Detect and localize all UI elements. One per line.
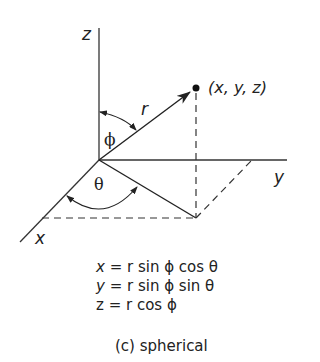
equation-z-lhs: z	[96, 296, 104, 314]
theta-label: θ	[94, 175, 104, 194]
radius-label: r	[141, 99, 149, 119]
equation-x-lhs: x	[96, 258, 105, 276]
point-marker	[193, 85, 200, 92]
figure-caption: (c) spherical	[115, 337, 208, 355]
y-axis-label: y	[273, 167, 285, 187]
x-axis-label: x	[34, 228, 46, 248]
equation-x-rhs: = r sin ϕ cos θ	[110, 258, 218, 276]
equation-y-lhs: y	[96, 277, 105, 295]
phi-arc	[100, 112, 136, 130]
z-axis-label: z	[81, 24, 92, 44]
phi-label: ϕ	[104, 129, 116, 149]
equation-y: y = r sin ϕ sin θ	[96, 277, 214, 296]
equation-z-rhs: = r cos ϕ	[109, 296, 177, 314]
point-label: (x, y, z)	[208, 78, 267, 97]
x-axis	[20, 160, 99, 242]
equation-z: z = r cos ϕ	[96, 296, 177, 315]
x-parallel-dashed	[196, 160, 252, 218]
equation-x: x = r sin ϕ cos θ	[96, 258, 218, 277]
projection-line	[99, 160, 196, 218]
equation-y-rhs: = r sin ϕ sin θ	[110, 277, 215, 295]
